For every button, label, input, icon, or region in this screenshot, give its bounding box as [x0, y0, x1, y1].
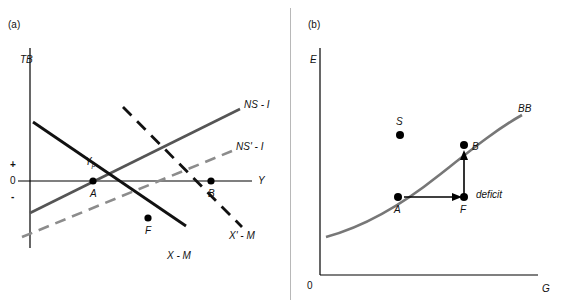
panel-b-graphics	[290, 0, 570, 308]
label-ns-prime-minus-i: NS' - I	[236, 142, 263, 152]
panel-b-y-axis-label: E	[310, 55, 317, 65]
label-x-prime-minus-m: X' - M	[229, 231, 255, 241]
label-deficit: deficit	[476, 190, 502, 200]
label-point-b-s: S	[396, 117, 403, 127]
panel-a: (a) TB Y + 0 - NS - I NS' - I X - M X' -…	[0, 0, 290, 308]
point-a	[89, 177, 96, 184]
point-b-f	[460, 193, 468, 201]
label-bb-curve: BB	[518, 104, 531, 114]
curve-bb	[326, 115, 522, 237]
label-point-a: A	[90, 189, 97, 199]
axis-mark-minus: -	[11, 192, 14, 202]
panel-a-graphics	[0, 0, 290, 308]
label-point-b-b: B	[472, 142, 479, 152]
point-b-s	[396, 131, 404, 139]
label-point-yp: Yp	[85, 157, 96, 167]
label-point-b: B	[208, 189, 215, 199]
panel-a-x-axis-label: Y	[258, 176, 265, 186]
label-point-b-a: A	[394, 205, 401, 215]
panel-a-y-axis-label: TB	[20, 55, 33, 65]
label-ns-minus-i: NS - I	[244, 100, 270, 110]
point-b-b	[460, 141, 468, 149]
point-b	[207, 177, 214, 184]
label-point-b-f: F	[460, 205, 466, 215]
axis-mark-zero: 0	[10, 176, 16, 186]
label-x-minus-m: X - M	[167, 251, 191, 261]
figure-container: (a) TB Y + 0 - NS - I NS' - I X - M X' -…	[0, 0, 570, 308]
label-yp-subscript: p	[92, 161, 96, 168]
point-b-a	[394, 193, 402, 201]
panel-b-x-axis-label: G	[542, 284, 550, 294]
panel-b: (b) E G 0 BB S A B F deficit	[290, 0, 570, 308]
panel-b-tag: (b)	[308, 20, 320, 30]
curve-x-minus-m	[33, 122, 186, 226]
label-yp-main: Y	[85, 156, 92, 167]
panel-a-tag: (a)	[8, 20, 20, 30]
panel-b-origin-label: 0	[307, 281, 313, 291]
axis-mark-plus: +	[10, 160, 16, 170]
arrow-f-to-b-head	[460, 150, 468, 160]
point-f	[144, 214, 151, 221]
label-point-f: F	[145, 226, 151, 236]
curve-x-prime-minus-m	[123, 107, 242, 227]
